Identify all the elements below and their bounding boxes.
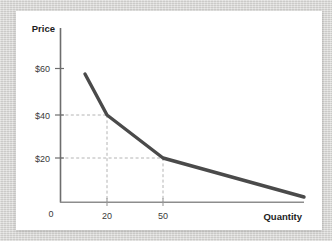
guide-lines <box>60 115 163 202</box>
demand-curve-chart: $60 $40 $20 0 20 50 Price Quantity <box>16 11 322 230</box>
y-axis-ticks <box>55 69 64 159</box>
y-tick-label-40: $40 <box>35 111 50 121</box>
figure-card: $60 $40 $20 0 20 50 Price Quantity <box>16 11 322 230</box>
y-axis-title: Price <box>32 23 55 34</box>
y-tick-label-60: $60 <box>35 64 50 74</box>
demand-curve-line <box>85 74 304 197</box>
x-axis-title: Quantity <box>263 211 302 222</box>
axes <box>60 28 304 203</box>
x-tick-label-50: 50 <box>158 211 168 221</box>
y-tick-label-20: $20 <box>35 154 50 164</box>
x-tick-label-0: 0 <box>48 209 53 219</box>
x-tick-label-20: 20 <box>102 211 112 221</box>
